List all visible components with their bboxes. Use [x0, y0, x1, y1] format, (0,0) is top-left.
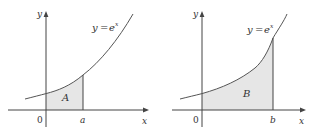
shaded-region-b: [202, 38, 273, 110]
y-axis-label: y: [192, 9, 199, 19]
y-axis-arrow-icon: [200, 11, 205, 17]
curve-label: y = e x: [91, 20, 119, 33]
curve-label-exp: x: [115, 20, 119, 27]
bound-label-a: a: [80, 115, 85, 125]
panel-left: y A 0 a x y = e x: [8, 9, 149, 127]
bound-label-b: b: [270, 115, 276, 125]
panel-right: y B 0 b x y = e x: [172, 9, 306, 127]
curve-label: y = e x: [246, 22, 274, 35]
figure: y A 0 a x y = e x y B 0 b x y = e x: [0, 0, 319, 137]
origin-label: 0: [37, 115, 43, 125]
curve-label-y: y: [91, 22, 98, 33]
region-label-a: A: [61, 92, 69, 103]
curve-label-y: y: [246, 24, 253, 35]
y-axis-arrow-icon: [44, 11, 49, 17]
x-axis-arrow-icon: [143, 108, 149, 113]
origin-label: 0: [193, 115, 199, 125]
y-axis-label: y: [36, 9, 43, 19]
x-axis-arrow-icon: [300, 108, 306, 113]
curve-label-eq: =: [255, 24, 263, 35]
curve-label-eq: =: [100, 22, 108, 33]
x-axis-label: x: [142, 116, 147, 126]
curve-label-exp: x: [270, 22, 274, 29]
region-label-b: B: [242, 88, 250, 99]
x-axis-label: x: [299, 116, 304, 126]
